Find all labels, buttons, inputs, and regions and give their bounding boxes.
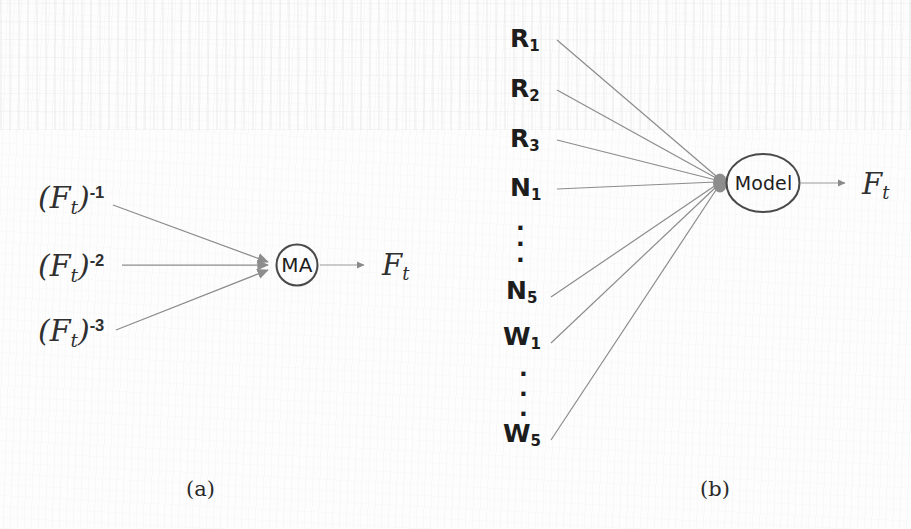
- panel-b-ellipsis-n: ...: [516, 222, 525, 254]
- panel-a-caption: (a): [186, 477, 215, 501]
- panel-a-output-label: Ft: [382, 248, 409, 284]
- panel-b-ellipsis-w: ...: [519, 368, 528, 408]
- panel-b-input-label-w5: W5: [503, 419, 541, 450]
- wire-a-input-1: [113, 205, 268, 262]
- ma-node-label: MA: [277, 253, 317, 277]
- panel-b-convergence-point: [713, 174, 727, 193]
- panel-b-input-label-n1: N1: [510, 173, 541, 204]
- panel-a-input-label-2: (Ft)-2: [38, 248, 104, 286]
- wire-b-input-2: [557, 90, 716, 178]
- panel-a-input-label-3: (Ft)-3: [38, 313, 104, 351]
- wire-a-input-3: [116, 270, 268, 330]
- panel-b-input-wires: [551, 40, 716, 440]
- panel-b-output-label: Ft: [862, 167, 889, 203]
- panel-b-caption: (b): [700, 477, 730, 501]
- panel-b-input-label-r2: R2: [510, 74, 540, 105]
- panel-b-input-label-n5: N5: [506, 276, 537, 307]
- connector-lines: [0, 0, 911, 529]
- wire-b-input-1: [557, 40, 716, 176]
- panel-b-input-label-r1: R1: [510, 24, 540, 55]
- figure-canvas: (Ft)-1 (Ft)-2 (Ft)-3 MA Ft R1 R2 R3 N1 .…: [0, 0, 911, 529]
- wire-b-input-4: [557, 182, 716, 189]
- model-node-label: Model: [728, 172, 799, 194]
- scan-grain-texture: [0, 0, 911, 529]
- wire-b-input-5: [551, 185, 716, 297]
- wire-b-input-3: [557, 140, 716, 180]
- wire-b-input-7: [551, 190, 716, 440]
- panel-b-input-label-r3: R3: [510, 124, 540, 155]
- wire-b-input-6: [551, 187, 716, 343]
- panel-b-input-label-w1: W1: [503, 322, 541, 353]
- scan-ghost-text-texture: [0, 0, 911, 130]
- panel-a-input-wires: [113, 205, 268, 330]
- panel-a-input-label-1: (Ft)-1: [38, 180, 104, 218]
